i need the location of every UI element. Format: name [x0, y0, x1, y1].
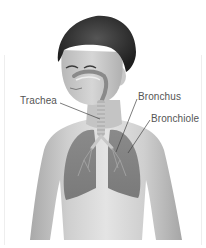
child-illustration [0, 0, 206, 248]
torso [30, 120, 182, 240]
label-bronchiole: Bronchiole [151, 114, 199, 124]
label-trachea: Trachea [20, 96, 57, 106]
label-bronchus: Bronchus [138, 92, 181, 102]
diagram-stage: Trachea Bronchus Bronchiole [0, 0, 206, 248]
